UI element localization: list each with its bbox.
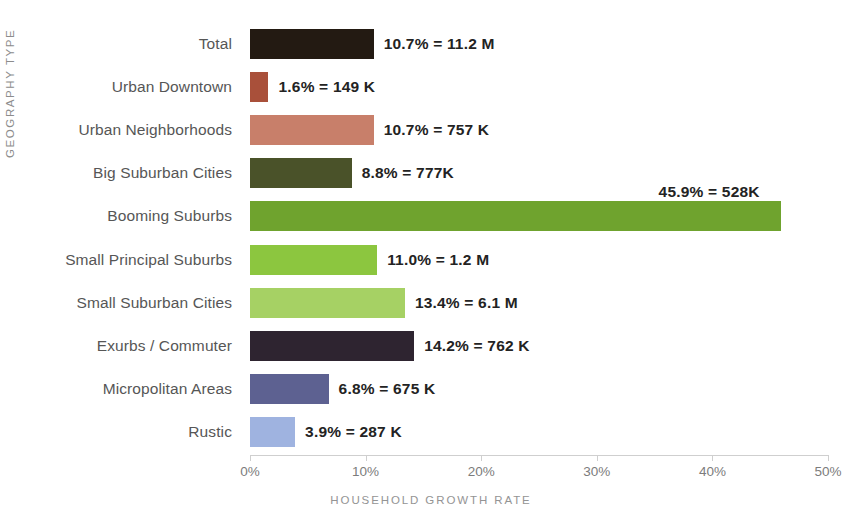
bar [250,245,377,275]
category-label: Small Suburban Cities [77,294,232,312]
category-label: Urban Neighborhoods [78,121,232,139]
x-tick-mark [597,455,598,461]
x-tick-label: 20% [468,464,495,479]
x-tick-label: 10% [352,464,379,479]
bar [250,331,414,361]
x-tick-mark [712,455,713,461]
x-tick-mark [828,455,829,461]
bar-row: Booming Suburbs45.9% = 528K [250,195,828,238]
plot-area: Total10.7% = 11.2 MUrban Downtown1.6% = … [250,22,828,454]
x-axis-line [250,455,828,456]
bar-value-label: 8.8% = 777K [362,164,454,182]
x-tick-label: 50% [814,464,841,479]
category-label: Small Principal Suburbs [65,251,232,269]
category-label: Booming Suburbs [107,207,232,225]
bar-row: Total10.7% = 11.2 M [250,22,828,65]
bar-value-label: 3.9% = 287 K [305,423,402,441]
bar-value-label: 45.9% = 528K [659,183,760,201]
bar [250,115,374,145]
x-tick-mark [481,455,482,461]
bar-value-label: 11.0% = 1.2 M [387,251,489,269]
bar-row: Micropolitan Areas6.8% = 675 K [250,368,828,411]
x-tick-label: 40% [699,464,726,479]
x-tick-mark [250,455,251,461]
y-axis-title: GEOGRAPHY TYPE [4,0,16,158]
bar [250,201,781,231]
bar-value-label: 6.8% = 675 K [339,380,436,398]
bar-row: Exurbs / Commuter14.2% = 762 K [250,324,828,367]
bar [250,288,405,318]
bar-value-label: 10.7% = 11.2 M [384,35,495,53]
bar-value-label: 13.4% = 6.1 M [415,294,518,312]
category-label: Rustic [188,423,232,441]
bar-value-label: 10.7% = 757 K [384,121,490,139]
bar [250,72,268,102]
bar-chart: GEOGRAPHY TYPE Total10.7% = 11.2 MUrban … [0,0,862,526]
bar [250,374,329,404]
x-axis-title: HOUSEHOLD GROWTH RATE [0,494,862,506]
category-label: Urban Downtown [112,78,232,96]
x-tick-label: 0% [240,464,260,479]
bar [250,417,295,447]
x-tick-label: 30% [583,464,610,479]
category-label: Micropolitan Areas [103,380,232,398]
bar-value-label: 14.2% = 762 K [424,337,530,355]
bar [250,29,374,59]
bar-row: Small Principal Suburbs11.0% = 1.2 M [250,238,828,281]
category-label: Total [199,35,232,53]
bar [250,158,352,188]
bar-row: Urban Downtown1.6% = 149 K [250,65,828,108]
x-tick-mark [366,455,367,461]
category-label: Exurbs / Commuter [97,337,232,355]
bar-row: Rustic3.9% = 287 K [250,411,828,454]
category-label: Big Suburban Cities [93,164,232,182]
bar-value-label: 1.6% = 149 K [278,78,375,96]
bar-row: Urban Neighborhoods10.7% = 757 K [250,108,828,151]
bar-row: Small Suburban Cities13.4% = 6.1 M [250,281,828,324]
